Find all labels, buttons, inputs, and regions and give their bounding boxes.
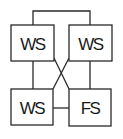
node-bottom-left-label: WS — [20, 99, 46, 118]
edge-top-left-top-right — [33, 11, 90, 25]
node-top-left-label: WS — [20, 35, 46, 54]
network-diagram: WS WS WS FS — [0, 0, 123, 139]
node-bottom-right-label: FS — [81, 99, 101, 118]
node-top-right-label: WS — [78, 35, 104, 54]
